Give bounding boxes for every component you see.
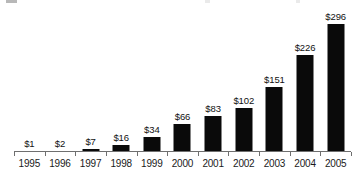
bar-value-label: $102 [233,96,254,106]
bar-group: $1 [14,14,45,152]
cropped-caption-artifact-left [6,0,17,3]
x-axis-label-2005: 2005 [320,158,351,169]
bar-value-label: $34 [144,125,160,135]
bar-value-label: $7 [85,137,95,147]
bar [143,137,160,152]
bar-value-label: $16 [113,133,129,143]
bar-value-label: $1 [24,139,34,149]
axis-tick [167,152,168,156]
bar-value-label: $296 [325,12,346,22]
x-axis-label-2004: 2004 [290,158,321,169]
axis-tick [14,152,15,156]
x-axis-label-2003: 2003 [259,158,290,169]
axis-tick [351,152,352,156]
axis-tick [137,152,138,156]
axis-tick [198,152,199,156]
axis-tick [75,152,76,156]
bar [266,87,283,152]
x-axis-category-labels: 1995199619971998199920002001200220032004… [14,158,351,172]
plot-area: $1$2$7$16$34$66$83$102$151$226$296 [14,14,351,152]
x-axis-label-1995: 1995 [14,158,45,169]
bar-group: $16 [106,14,137,152]
bar-value-label: $151 [264,75,285,85]
bar-group: $151 [259,14,290,152]
axis-tick [290,152,291,156]
bar [205,116,222,152]
bar-group: $2 [45,14,76,152]
axis-tick [106,152,107,156]
bar-group: $66 [167,14,198,152]
bar-group: $34 [137,14,168,152]
x-axis-label-2002: 2002 [228,158,259,169]
bar-value-label: $66 [175,112,191,122]
bar [174,124,191,152]
axis-tick [228,152,229,156]
bar-group: $226 [290,14,321,152]
bar [297,55,314,152]
bar-group: $7 [75,14,106,152]
axis-tick [320,152,321,156]
x-axis-line [14,151,351,152]
axis-tick [45,152,46,156]
bar [235,108,252,152]
x-axis-label-2001: 2001 [198,158,229,169]
x-axis-label-2000: 2000 [167,158,198,169]
cropped-caption-artifact-middle [205,0,210,3]
bar-group: $83 [198,14,229,152]
x-axis-label-1998: 1998 [106,158,137,169]
bar-group: $296 [320,14,351,152]
cropped-caption-artifact-right [296,0,300,3]
x-axis-label-1996: 1996 [45,158,76,169]
bar-value-label: $2 [55,139,65,149]
bar-value-label: $226 [295,43,316,53]
axis-tick [259,152,260,156]
bar-chart-figure: $1$2$7$16$34$66$83$102$151$226$296 19951… [0,0,359,176]
x-axis-label-1997: 1997 [75,158,106,169]
x-axis-label-1999: 1999 [137,158,168,169]
bar-group: $102 [228,14,259,152]
bar [327,24,344,152]
bar-value-label: $83 [205,104,221,114]
